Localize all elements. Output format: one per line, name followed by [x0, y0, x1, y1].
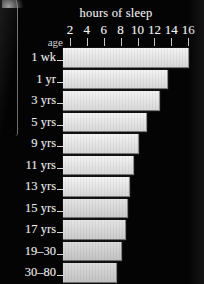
x-tick-label-16: 16 — [182, 22, 195, 37]
chart-row: 9 yrs — [0, 133, 204, 155]
x-tick-label-4: 4 — [84, 22, 91, 37]
bar-1-wk — [63, 48, 189, 68]
x-tick-mark-6 — [104, 38, 105, 46]
x-tick-label-8: 8 — [117, 22, 124, 37]
row-label-30-80: 30–80 — [0, 265, 56, 279]
bar-11-yrs — [63, 156, 134, 176]
x-tick-mark-14 — [171, 38, 172, 46]
bar-13-yrs — [63, 177, 130, 197]
plot-area: 1 wk1 yr3 yrs5 yrs9 yrs11 yrs13 yrs15 yr… — [0, 47, 204, 284]
x-tick-mark-12 — [154, 38, 155, 46]
chart-row: 11 yrs — [0, 155, 204, 177]
x-tick-mark-10 — [138, 38, 139, 46]
chart-row: 15 yrs — [0, 198, 204, 220]
bar-15-yrs — [63, 199, 128, 219]
bar-3-yrs — [63, 91, 160, 111]
x-tick-label-6: 6 — [100, 22, 107, 37]
bar-17-yrs — [63, 220, 126, 240]
bar-5-yrs — [63, 113, 147, 133]
chart-row: 13 yrs — [0, 176, 204, 198]
chart-row: 17 yrs — [0, 219, 204, 241]
row-label-19-30: 19–30 — [0, 244, 56, 258]
x-tick-label-2: 2 — [67, 22, 74, 37]
bar-19-30 — [63, 242, 122, 262]
chart-row: 1 wk — [0, 47, 204, 69]
chart-row: 5 yrs — [0, 112, 204, 134]
x-tick-mark-16 — [188, 38, 189, 46]
row-label-9-yrs: 9 yrs — [0, 136, 56, 150]
row-label-3-yrs: 3 yrs — [0, 93, 56, 107]
bar-30-80 — [63, 263, 117, 283]
chart-row: 3 yrs — [0, 90, 204, 112]
row-label-17-yrs: 17 yrs — [0, 222, 56, 236]
row-label-15-yrs: 15 yrs — [0, 201, 56, 215]
chart-row: 19–30 — [0, 241, 204, 263]
x-tick-label-14: 14 — [165, 22, 178, 37]
row-label-1-wk: 1 wk — [0, 50, 56, 64]
chart-title: hours of sleep — [0, 6, 204, 21]
row-label-13-yrs: 13 yrs — [0, 179, 56, 193]
chart-row: 1 yr — [0, 69, 204, 91]
x-tick-mark-2 — [70, 38, 71, 46]
bar-1-yr — [63, 70, 168, 90]
x-tick-label-10: 10 — [131, 22, 144, 37]
chart-row: 30–80 — [0, 262, 204, 284]
bar-9-yrs — [63, 134, 139, 154]
x-tick-mark-8 — [121, 38, 122, 46]
x-tick-label-12: 12 — [148, 22, 161, 37]
row-label-1-yr: 1 yr — [0, 72, 56, 86]
x-tick-mark-4 — [87, 38, 88, 46]
row-label-11-yrs: 11 yrs — [0, 158, 56, 172]
row-label-5-yrs: 5 yrs — [0, 115, 56, 129]
sleep-hours-bar-chart: hours of sleep 246810121416 age 1 wk1 yr… — [0, 0, 204, 284]
